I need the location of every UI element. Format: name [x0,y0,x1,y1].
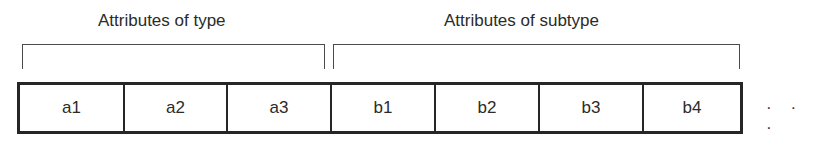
cell-b1: b1 [332,85,436,131]
type-attributes-label: Attributes of type [98,11,226,31]
continuation-ellipsis: · · · [766,98,818,138]
cell-b3: b3 [540,85,644,131]
cell-a1: a1 [20,85,125,131]
subtype-attributes-label: Attributes of subtype [444,11,599,31]
type-attributes-bracket [22,44,325,69]
cell-a3: a3 [228,85,332,131]
cell-b2: b2 [436,85,540,131]
subtype-attributes-bracket [333,44,740,69]
cell-b4: b4 [644,85,740,131]
cell-a2: a2 [125,85,228,131]
record-layout: a1 a2 a3 b1 b2 b3 b4 [17,82,743,134]
